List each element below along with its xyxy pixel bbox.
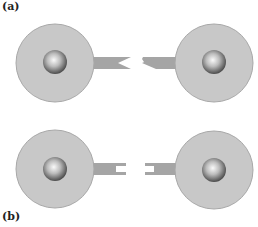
nucleus-icon <box>202 158 226 182</box>
panel-b-left-cell <box>16 130 126 208</box>
v-notch-connector <box>93 57 131 69</box>
fork-connector <box>93 163 126 175</box>
nucleus-icon <box>202 50 226 74</box>
diagram <box>0 0 258 227</box>
nucleus-icon <box>43 50 67 74</box>
nucleus-icon <box>43 157 67 181</box>
fork-connector <box>145 163 176 175</box>
panel-b-right-cell <box>145 131 253 209</box>
panel-a-right-cell <box>142 24 253 102</box>
panel-a-left-cell <box>16 24 131 102</box>
